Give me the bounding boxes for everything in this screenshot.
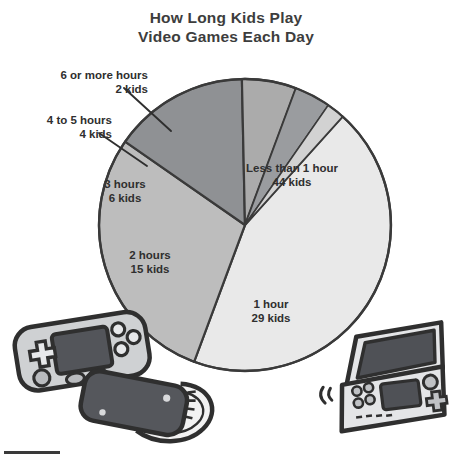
slice-label-2-hours-value: 15 kids xyxy=(104,262,196,276)
game-controller-icon xyxy=(76,368,215,446)
page-title-line-2: Video Games Each Day xyxy=(0,27,452,46)
slice-label-2-hours-name: 2 hours xyxy=(129,249,171,261)
slice-label-4-to-5-hours-value: 4 kids xyxy=(0,127,112,141)
slice-label-less-than-1-hour-name: Less than 1 hour xyxy=(246,162,338,174)
slice-label-6-or-more-hours-name: 6 or more hours xyxy=(60,69,148,81)
slice-label-2-hours: 2 hours 15 kids xyxy=(104,248,196,276)
slice-label-1-hour-value: 29 kids xyxy=(228,311,314,325)
slice-label-1-hour: 1 hour 29 kids xyxy=(228,297,314,325)
slice-label-less-than-1-hour-value: 44 kids xyxy=(228,175,356,189)
page-title-line-1: How Long Kids Play xyxy=(0,8,452,27)
slice-label-3-hours-name: 3 hours xyxy=(104,178,146,190)
slice-label-4-to-5-hours: 4 to 5 hours 4 kids xyxy=(0,113,112,141)
slice-label-3-hours-value: 6 kids xyxy=(82,191,168,205)
footer-rule xyxy=(4,451,60,454)
slice-label-6-or-more-hours-value: 2 kids xyxy=(10,82,148,96)
page-title: How Long Kids Play Video Games Each Day xyxy=(0,8,452,46)
slice-label-4-to-5-hours-name: 4 to 5 hours xyxy=(47,114,112,126)
slice-label-3-hours: 3 hours 6 kids xyxy=(82,177,168,205)
slice-label-6-or-more-hours: 6 or more hours 2 kids xyxy=(10,68,148,96)
chart-canvas: [data-name="pie-slices"]{display:none;} xyxy=(0,0,452,466)
slice-label-less-than-1-hour: Less than 1 hour 44 kids xyxy=(228,161,356,189)
slice-label-1-hour-name: 1 hour xyxy=(253,298,288,310)
